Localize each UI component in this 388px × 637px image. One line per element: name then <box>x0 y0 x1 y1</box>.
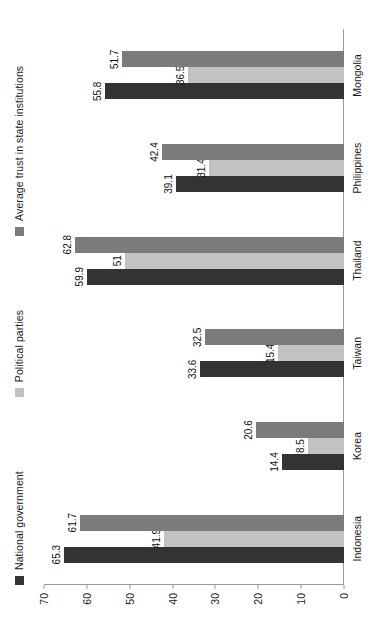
bar-value-label: 31.4 <box>196 158 207 177</box>
bar-value-label: 65.3 <box>51 545 62 564</box>
bar: 31.4 <box>209 160 344 176</box>
plot-area: 65.341.961.7Indonesia14.48.520.6Korea33.… <box>44 29 344 585</box>
category-label: Taiwan <box>351 337 363 370</box>
bar-value-label: 42.4 <box>149 142 160 161</box>
category-label: Indonesia <box>351 516 363 562</box>
bar-group: 59.95162.8Thailand <box>44 214 344 307</box>
bar-value-label: 51 <box>112 255 123 266</box>
bar-value-label: 62.8 <box>62 235 73 254</box>
bar: 41.9 <box>164 531 344 547</box>
bar: 65.3 <box>64 547 344 563</box>
legend-item-average-trust: Average trust in state institutions <box>13 66 25 236</box>
bar-value-label: 15.4 <box>265 344 276 363</box>
axis-tick-label: 30 <box>209 593 221 605</box>
bar: 61.7 <box>80 515 344 531</box>
legend-swatch-icon-political-parties <box>15 388 24 397</box>
bar-value-label: 61.7 <box>67 513 78 532</box>
bar-value-label: 33.6 <box>187 360 198 379</box>
bar-value-label: 51.7 <box>109 50 120 69</box>
axis-tick-mark <box>86 585 87 589</box>
axis-tick-mark <box>44 585 45 589</box>
axis-tick-label: 40 <box>167 593 179 605</box>
bar-value-label: 32.5 <box>192 328 203 347</box>
category-label: Korea <box>351 432 363 460</box>
legend-item-political-parties: Political parties <box>13 310 25 397</box>
axis-tick-label: 70 <box>38 593 50 605</box>
legend-swatch-icon-national-government <box>15 576 24 585</box>
legend-label-political-parties: Political parties <box>13 310 25 382</box>
bar-group: 39.131.442.4Philippines <box>44 122 344 215</box>
value-axis: 010203040506070 <box>44 585 344 637</box>
bar: 20.6 <box>256 422 344 438</box>
category-label: Mongolia <box>351 54 363 97</box>
axis-tick-label: 50 <box>124 593 136 605</box>
legend-item-national-government: National government <box>13 471 25 585</box>
bar-value-label: 20.6 <box>243 420 254 439</box>
bar-group: 55.836.551.7Mongolia <box>44 29 344 122</box>
axis-tick-mark <box>215 585 216 589</box>
bar: 55.8 <box>105 83 344 99</box>
axis-tick-mark <box>258 585 259 589</box>
bar: 8.5 <box>308 438 344 454</box>
category-label: Thailand <box>351 241 363 281</box>
legend-swatch-icon-average-trust <box>15 227 24 236</box>
bar-value-label: 55.8 <box>92 82 103 101</box>
bar: 62.8 <box>75 237 344 253</box>
bar-value-label: 39.1 <box>163 174 174 193</box>
bar-value-label: 59.9 <box>74 267 85 286</box>
bar: 51 <box>125 253 344 269</box>
axis-tick-label: 10 <box>295 593 307 605</box>
bar: 59.9 <box>87 269 344 285</box>
axis-tick-label: 20 <box>252 593 264 605</box>
chart-figure: National government Political parties Av… <box>0 0 388 637</box>
bar-group: 14.48.520.6Korea <box>44 400 344 493</box>
legend-label-average-trust: Average trust in state institutions <box>13 66 25 221</box>
bar: 33.6 <box>200 361 344 377</box>
axis-tick-mark <box>344 585 345 589</box>
bar: 32.5 <box>205 329 344 345</box>
legend-label-national-government: National government <box>13 471 25 570</box>
bar-group: 33.615.432.5Taiwan <box>44 307 344 400</box>
axis-tick-mark <box>301 585 302 589</box>
bar: 15.4 <box>278 345 344 361</box>
axis-tick-mark <box>129 585 130 589</box>
bar-value-label: 14.4 <box>269 452 280 471</box>
bar: 14.4 <box>282 454 344 470</box>
bar-value-label: 36.5 <box>175 66 186 85</box>
axis-tick-label: 0 <box>338 593 350 599</box>
bar-value-label: 8.5 <box>295 439 306 453</box>
axis-tick-label: 60 <box>81 593 93 605</box>
bar: 39.1 <box>176 176 344 192</box>
axis-tick-mark <box>172 585 173 589</box>
category-label: Philippines <box>351 143 363 194</box>
bar: 42.4 <box>162 144 344 160</box>
bar-group: 65.341.961.7Indonesia <box>44 492 344 585</box>
bar: 36.5 <box>188 67 344 83</box>
chart-legend: National government Political parties Av… <box>6 0 32 637</box>
bar: 51.7 <box>122 51 344 67</box>
bar-value-label: 41.9 <box>151 529 162 548</box>
chart-canvas: National government Political parties Av… <box>0 0 388 637</box>
